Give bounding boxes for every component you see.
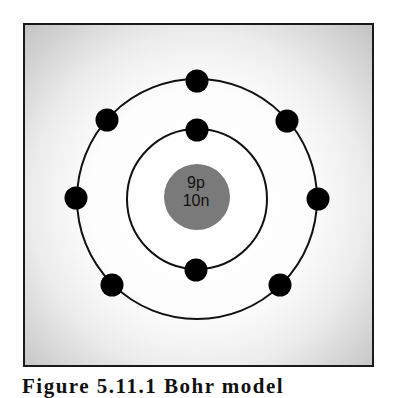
nucleus-label: 9p 10n — [163, 174, 229, 210]
electron-outer-top — [186, 70, 209, 93]
electron-outer-left — [65, 187, 88, 210]
neutrons-label: 10n — [163, 192, 229, 210]
figure-caption: Figure 5.11.1 Bohr model — [22, 374, 284, 398]
protons-label: 9p — [163, 174, 229, 192]
electron-outer-right — [307, 188, 330, 211]
electron-outer-lower-right — [269, 274, 292, 297]
electron-outer-upper-right — [276, 110, 299, 133]
electron-outer-upper-left — [96, 109, 119, 132]
electron-outer-lower-left — [101, 274, 124, 297]
electron-inner-top — [186, 119, 209, 142]
electron-inner-bottom — [185, 259, 208, 282]
